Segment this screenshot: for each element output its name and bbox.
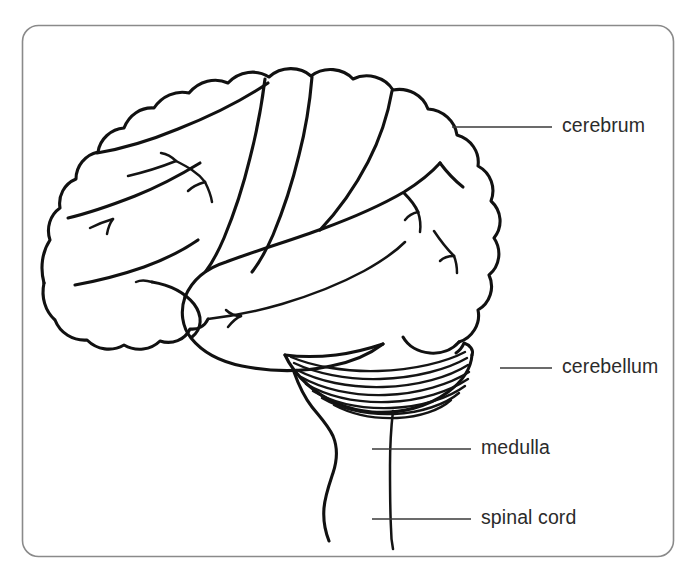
structure-labels: cerebrum cerebellum medulla spinal cord [481,114,658,528]
label-spinal-cord: spinal cord [481,506,576,528]
brain-diagram-figure: cerebrum cerebellum medulla spinal cord [0,0,699,578]
temporal-lobe [182,163,440,371]
cerebellum-folia-hatching [291,352,469,418]
brain-diagram-canvas: cerebrum cerebellum medulla spinal cord [0,0,699,578]
figure-frame [23,26,674,557]
parietal-occipital-detail [404,163,463,273]
label-medulla: medulla [481,436,550,458]
cerebral-sulci [68,77,392,337]
occipital-edge [403,337,459,353]
label-cerebellum: cerebellum [562,355,658,377]
label-cerebrum: cerebrum [562,114,645,136]
